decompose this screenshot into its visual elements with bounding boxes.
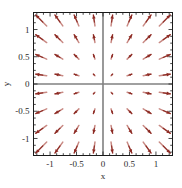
- y-tick-label: -0.5: [15, 106, 30, 116]
- x-axis-title: x: [101, 171, 106, 181]
- y-tick-label: 0.5: [18, 52, 30, 62]
- y-axis-title: y: [1, 81, 11, 86]
- x-tick-label: -1: [46, 159, 54, 169]
- x-tick-label: 1: [154, 159, 159, 169]
- x-tick-label: 0.5: [124, 159, 136, 169]
- y-tick-label: -1: [22, 134, 30, 144]
- x-tick-label: 0: [101, 159, 106, 169]
- x-tick-label: -0.5: [69, 159, 84, 169]
- y-tick-label: 1: [25, 25, 30, 35]
- vector-field-figure: -1-0.500.51-1-0.500.51 x y: [0, 0, 182, 188]
- y-tick-label: 0: [25, 79, 30, 89]
- plot-canvas: -1-0.500.51-1-0.500.51 x y: [0, 0, 182, 188]
